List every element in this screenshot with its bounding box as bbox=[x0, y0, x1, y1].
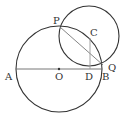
center-dot-o bbox=[58, 68, 60, 70]
geometry-diagram: A O D B Q P C bbox=[0, 0, 129, 120]
label-p: P bbox=[53, 15, 60, 26]
label-d: D bbox=[85, 71, 93, 82]
label-q: Q bbox=[108, 62, 116, 73]
label-a: A bbox=[4, 71, 13, 82]
label-o: O bbox=[55, 71, 63, 82]
label-c: C bbox=[90, 27, 98, 38]
circle-c bbox=[59, 6, 119, 66]
